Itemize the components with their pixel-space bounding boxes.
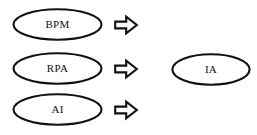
node-ia-label: IA [205,64,217,75]
right-arrow-icon [114,100,138,120]
node-bpm-label: BPM [45,19,69,30]
right-arrow-icon [114,15,138,35]
node-ai[interactable]: AI [12,93,103,126]
node-ai-label: AI [51,104,63,115]
right-arrow-icon [114,59,138,79]
node-ia[interactable]: IA [171,53,251,86]
diagram-canvas: BPM RPA AI [0,0,257,135]
node-rpa-label: RPA [47,63,68,74]
node-rpa[interactable]: RPA [12,52,103,85]
node-bpm[interactable]: BPM [12,8,103,41]
